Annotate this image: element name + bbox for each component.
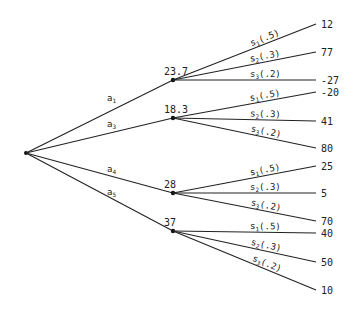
- action-branch-a1: a123.7s1(.5)12s2(.3)77s3(.2)-27: [26, 19, 339, 153]
- action-edge: [26, 80, 173, 153]
- state-probability-label: s3(.2): [251, 253, 284, 275]
- outcome-edge: [173, 193, 316, 221]
- action-edge: [26, 118, 173, 153]
- action-branch-a5: a537s1(.5)40s2(.3)50s3(.2)10: [26, 153, 333, 296]
- payoff-value: -20: [321, 87, 339, 98]
- outcome-edge: [173, 231, 316, 262]
- payoff-value: 25: [321, 161, 333, 172]
- payoff-value: 77: [321, 47, 333, 58]
- state-probability-label: s2(.3): [250, 182, 281, 193]
- payoff-value: 5: [321, 188, 327, 199]
- state-probability-label: s1(.5): [249, 28, 282, 49]
- outcome-edge: [173, 118, 316, 148]
- decision-tree: a123.7s1(.5)12s2(.3)77s3(.2)-27a318.3s1(…: [0, 0, 353, 313]
- payoff-value: 10: [321, 285, 333, 296]
- outcome-edge: [173, 52, 316, 80]
- payoff-value: 50: [321, 257, 333, 268]
- expected-value: 18.3: [164, 104, 188, 115]
- action-label: a5: [107, 187, 116, 198]
- outcome-branch: s3(.2)-27: [173, 69, 339, 86]
- outcome-branch: s3(.2)80: [173, 118, 333, 154]
- outcome-edge: [173, 92, 316, 118]
- action-label: a1: [107, 93, 116, 104]
- payoff-value: 41: [321, 116, 333, 127]
- payoff-value: 12: [321, 19, 333, 30]
- outcome-branch: s2(.3)5: [173, 182, 327, 199]
- state-probability-label: s3(.2): [250, 69, 281, 80]
- outcome-edge: [173, 24, 316, 80]
- outcome-edge: [173, 231, 316, 290]
- action-edge: [26, 153, 173, 193]
- outcome-edge: [173, 118, 316, 121]
- state-probability-label: s1(.5): [250, 221, 281, 232]
- expected-value: 37: [164, 217, 176, 228]
- payoff-value: 40: [321, 228, 333, 239]
- action-label: a4: [107, 164, 116, 175]
- action-label: a3: [107, 119, 116, 130]
- outcome-edge: [173, 231, 316, 233]
- action-branch-a3: a318.3s1(.5)-20s2(.3)41s3(.2)80: [26, 87, 339, 154]
- action-edge: [26, 153, 173, 231]
- expected-value: 28: [164, 179, 176, 190]
- payoff-value: 70: [321, 216, 333, 227]
- payoff-value: -27: [321, 75, 339, 86]
- payoff-value: 80: [321, 143, 333, 154]
- outcome-edge: [173, 166, 316, 193]
- action-branch-a4: a428s1(.5)25s2(.3)5s3(.2)70: [26, 153, 333, 227]
- state-probability-label: s2(.3): [250, 109, 281, 121]
